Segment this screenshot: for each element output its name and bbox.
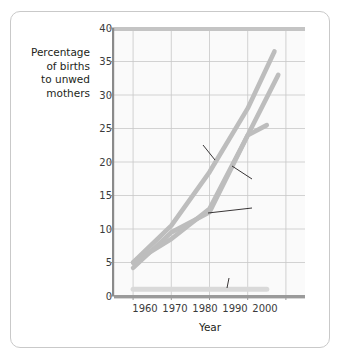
chart-plot-svg (0, 0, 342, 361)
chart-figure-frame: Percentage of births to unwed mothers 40… (0, 0, 342, 361)
